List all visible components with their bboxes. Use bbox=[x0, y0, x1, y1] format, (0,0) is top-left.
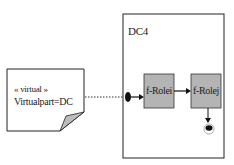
final-node-dot-icon bbox=[206, 125, 213, 131]
initial-node-icon bbox=[125, 92, 131, 102]
note-stereotype: « virtual » bbox=[14, 84, 48, 94]
container-title: DC4 bbox=[128, 25, 148, 37]
note-text: Virtualpart=DC bbox=[14, 96, 73, 107]
node-label-rolej: f-Rolej bbox=[191, 85, 221, 96]
node-label-rolei: f-Rolei bbox=[144, 85, 174, 96]
diagram-canvas bbox=[0, 0, 234, 165]
